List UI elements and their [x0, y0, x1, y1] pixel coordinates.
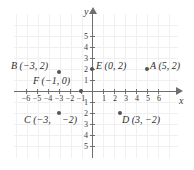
- y-tick--2: [90, 113, 95, 114]
- y-tick-label--2: 2: [76, 109, 88, 118]
- y-tick-3: [90, 58, 95, 59]
- y-axis-label: y: [84, 6, 88, 17]
- y-tick-label-3: 3: [76, 54, 88, 63]
- y-tick-label--5: 5: [76, 142, 88, 151]
- y-tick-label-4: 4: [76, 43, 88, 52]
- y-tick-label-2: 2: [76, 65, 88, 74]
- background-grid: [0, 0, 194, 170]
- y-tick-label-5: 5: [76, 32, 88, 41]
- point-label-a: A (5, 2): [150, 60, 180, 71]
- y-tick-5: [90, 36, 95, 37]
- x-axis-line: [14, 91, 178, 92]
- y-tick-label-1: 1: [76, 76, 88, 85]
- x-tick-label-6: 6: [152, 94, 166, 103]
- y-tick-label--1: 1: [76, 98, 88, 107]
- x-axis-label: x: [179, 95, 183, 106]
- point-label-e: E (0, 2): [96, 60, 126, 71]
- y-tick--4: [90, 135, 95, 136]
- y-tick-label--3: 3: [76, 120, 88, 129]
- y-tick-1: [90, 80, 95, 81]
- x-axis-arrow-icon: [176, 87, 183, 95]
- point-dot-f: [79, 89, 83, 93]
- point-label-c-part2: −2): [62, 114, 77, 125]
- y-tick-label--4: 4: [76, 131, 88, 140]
- point-label-d: D (3, −2): [122, 114, 160, 125]
- point-label-f: F (−1, 0): [33, 75, 70, 86]
- point-dot-a: [145, 67, 149, 71]
- point-dot-c: [57, 111, 61, 115]
- y-axis-line: [92, 12, 93, 158]
- coordinate-plane-figure: −6 −5 −4 −3 −2 −1 1 2 3 4 5 6 5 4 3 2 1 …: [0, 0, 194, 170]
- point-label-b: B (−3, 2): [11, 60, 48, 71]
- y-tick--1: [90, 102, 95, 103]
- point-dot-e: [90, 67, 94, 71]
- y-tick-4: [90, 47, 95, 48]
- y-tick--3: [90, 124, 95, 125]
- point-dot-b: [57, 70, 61, 74]
- y-axis-arrow-icon: [89, 7, 97, 14]
- y-tick--5: [90, 146, 95, 147]
- point-label-c-part1: C (−3,: [24, 114, 51, 125]
